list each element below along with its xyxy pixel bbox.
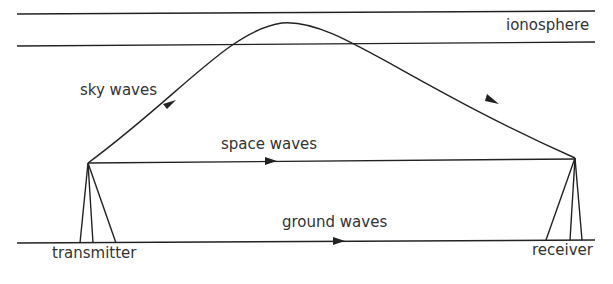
space-wave-path xyxy=(88,159,575,163)
transmitter-antenna xyxy=(80,163,116,243)
receiver-label: receiver xyxy=(532,243,593,258)
sky-wave-arrow-down-icon xyxy=(485,94,499,104)
receiver-antenna xyxy=(546,158,582,240)
ground-waves-label: ground waves xyxy=(282,215,387,230)
ground-wave-arrow-icon xyxy=(333,237,345,245)
space-waves-label: space waves xyxy=(221,137,317,152)
ionosphere-lower-boundary xyxy=(17,42,595,46)
ionosphere-upper-boundary xyxy=(17,11,595,14)
ground-wave-path xyxy=(17,240,595,243)
transmitter-label: transmitter xyxy=(52,246,137,261)
ionosphere-label: ionosphere xyxy=(506,18,589,33)
space-wave-arrow-icon xyxy=(265,157,277,165)
sky-wave-arrow-up-icon xyxy=(163,100,176,109)
sky-waves-label: sky waves xyxy=(80,83,157,98)
